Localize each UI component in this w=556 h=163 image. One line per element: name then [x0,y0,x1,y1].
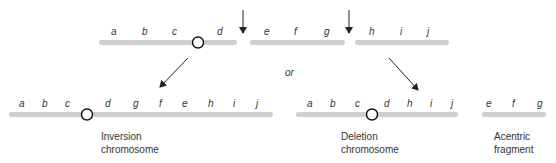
gene-label: d [384,98,390,109]
gene-label: j [254,98,259,109]
acentric-label-line2: fragment [494,144,534,155]
gene-label: a [307,98,313,109]
segment-hij [355,40,449,45]
gene-label: i [233,98,236,109]
gene-label: e [182,98,188,109]
inversion-chromosome: a b c d g f e h i j Inversion chromosome [9,98,273,155]
gene-label: h [407,98,413,109]
centromere-icon [367,109,378,120]
deletion-label-line1: Deletion [341,131,378,142]
deletion-label-line2: chromosome [341,144,399,155]
gene-label: g [537,98,543,109]
deletion-chromosome: a b c d h i j Deletion chromosome [296,98,458,155]
gene-label: g [133,98,139,109]
gene-label: b [142,26,148,37]
gene-label: a [19,98,25,109]
gene-label: e [486,98,492,109]
fragment-bar [482,112,546,117]
gene-label: c [65,98,70,109]
inversion-label-line2: chromosome [101,144,159,155]
gene-label: c [355,98,360,109]
acentric-fragment: e f g Acentric fragment [482,98,546,155]
gene-label: d [217,26,223,37]
gene-label: f [512,98,516,109]
inversion-arrow-icon [160,58,188,87]
gene-label: i [400,26,403,37]
inversion-label-line1: Inversion [101,131,142,142]
gene-label: a [111,26,117,37]
gene-label: e [264,26,270,37]
gene-label: g [324,26,330,37]
segment-abcd [99,40,237,45]
or-text: or [285,67,295,78]
segment-efg [250,40,345,45]
gene-label: b [330,98,336,109]
acentric-label-line1: Acentric [494,131,530,142]
gene-label: j [425,26,430,37]
gene-label: h [208,98,214,109]
chromosome-bar [9,112,273,117]
gene-label: c [172,26,177,37]
gene-label: j [449,98,454,109]
gene-label: b [42,98,48,109]
centromere-icon [193,37,204,48]
chromosome-rearrangement-diagram: a b c d e f g h i j or a b c d g f e h i… [0,0,556,163]
top-chromosome: a b c d e f g h i j [99,26,449,48]
centromere-icon [82,109,93,120]
deletion-arrow-icon [389,58,418,90]
gene-label: f [294,26,298,37]
gene-label: h [369,26,375,37]
gene-label: f [159,98,163,109]
gene-label: i [430,98,433,109]
gene-label: d [105,98,111,109]
